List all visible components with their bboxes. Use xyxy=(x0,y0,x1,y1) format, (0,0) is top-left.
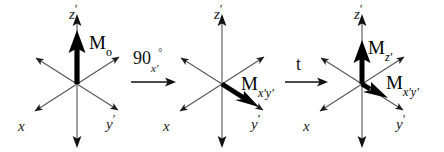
panel-after-pulse: z′ x y′ Mx′y′ xyxy=(155,0,289,152)
panel-after-relaxation-axes xyxy=(300,0,444,152)
axis-x-line xyxy=(35,84,77,111)
vector-label-M-z-prime: Mz′ xyxy=(368,38,392,61)
axis-label-y-prime: y′ xyxy=(396,112,406,132)
vector-label-M-zero: Mo xyxy=(89,33,112,56)
axis-label-x: x xyxy=(18,114,25,134)
axis-x-negative-line xyxy=(77,57,119,84)
axis-x-line xyxy=(180,84,222,111)
axis-label-y-prime: y′ xyxy=(251,112,261,132)
axis-label-z-prime: z′ xyxy=(69,2,78,22)
vector-M-zero xyxy=(69,30,86,84)
axis-label-z-prime: z′ xyxy=(214,2,223,22)
panel-after-relaxation: z′ x y′ Mz′ Mx′y′ xyxy=(300,0,444,152)
axis-y-prime-negative-line xyxy=(36,58,77,84)
axis-label-z-prime: z′ xyxy=(354,2,363,22)
axis-label-x: x xyxy=(303,114,310,134)
axis-y-prime-negative-line xyxy=(181,58,222,84)
vector-M-xy-prime xyxy=(362,82,388,98)
axis-y-prime-line xyxy=(77,84,118,110)
axis-label-y-prime: y′ xyxy=(106,112,116,132)
vector-label-M-xy-prime: Mx′y′ xyxy=(241,74,274,97)
axis-x-line xyxy=(320,84,362,111)
figure-canvas: z′ x y′ Mo 90x′° xyxy=(0,0,444,152)
vector-M-xy-prime-shaft xyxy=(362,84,370,89)
vector-label-M-xy-prime: Mx′y′ xyxy=(386,73,419,96)
axis-y-prime-negative-line xyxy=(321,58,362,84)
axis-label-x: x xyxy=(163,114,170,134)
